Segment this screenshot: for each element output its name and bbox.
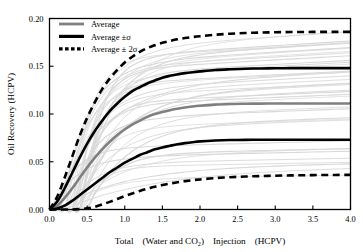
background-realization-curves	[50, 31, 351, 213]
y-tick-label: 0.00	[29, 206, 44, 215]
y-tick-label: 0.15	[29, 62, 44, 71]
x-tick-label: 3.5	[308, 215, 318, 224]
x-tick-label: 4.0	[345, 215, 355, 224]
chart-legend: AverageAverage ±σAverage ± 2σ	[59, 19, 138, 54]
x-tick-label: 2.5	[232, 215, 242, 224]
x-tick-label: 1.0	[120, 215, 130, 224]
x-tick-label: 0.0	[44, 215, 54, 224]
y-tick-label: 0.20	[29, 15, 44, 24]
legend-label-1: Average ±σ	[91, 32, 131, 42]
legend-label-0: Average	[91, 19, 120, 29]
y-axis-title: Oil Recovery (HCPV)	[6, 73, 16, 155]
x-axis-title: Total (Water and CO2) Injection (HCPV)	[115, 236, 286, 247]
x-tick-label: 1.5	[157, 215, 167, 224]
chart-figure: 0.00.51.01.52.02.53.03.54.00.000.050.100…	[0, 0, 363, 252]
y-tick-label: 0.05	[29, 158, 44, 167]
x-tick-label: 2.0	[195, 215, 205, 224]
legend-label-2: Average ± 2σ	[91, 44, 138, 54]
x-tick-label: 3.0	[270, 215, 280, 224]
oil-recovery-chart: 0.00.51.01.52.02.53.03.54.00.000.050.100…	[0, 0, 363, 252]
realization-curve	[50, 169, 351, 210]
y-tick-label: 0.10	[29, 110, 44, 119]
x-tick-label: 0.5	[82, 215, 92, 224]
